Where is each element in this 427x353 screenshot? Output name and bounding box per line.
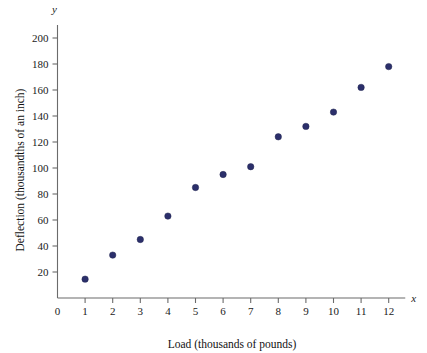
data-point [248,164,254,170]
x-tick-label: 10 [328,305,340,317]
y-tick-label: 180 [32,58,49,70]
x-tick-label: 3 [138,305,144,317]
data-point-series [82,63,392,282]
data-point [82,276,88,282]
x-axis-title: Load (thousands of pounds) [168,338,297,351]
x-tick-label: 1 [82,305,88,317]
y-axis-title: Deflection (thousandths of an inch) [14,88,27,251]
x-tick-label: 0 [55,305,61,317]
y-tick-label: 120 [32,136,49,148]
y-tick-label: 20 [38,266,50,278]
x-axis-tick-labels: 0123456789101112 [55,305,394,317]
y-tick-label: 40 [38,240,50,252]
data-point [165,213,171,219]
y-tick-label: 200 [32,32,49,44]
data-point [137,236,143,242]
y-axis-ticks [53,38,58,272]
x-tick-label: 8 [276,305,282,317]
x-tick-label: 12 [383,305,394,317]
y-axis-group: 20406080100120140160180200 y [32,3,58,298]
data-point [386,63,392,69]
x-tick-label: 2 [110,305,116,317]
x-tick-label: 6 [220,305,226,317]
y-axis-tick-labels: 20406080100120140160180200 [32,32,49,278]
data-point [275,134,281,140]
x-tick-label: 7 [248,305,254,317]
x-axis-variable-symbol: x [410,292,416,304]
y-axis-variable-symbol: y [51,3,57,15]
x-tick-label: 4 [165,305,171,317]
x-tick-label: 11 [356,305,367,317]
y-tick-label: 100 [32,162,49,174]
x-axis-group: 0123456789101112 x [55,292,417,317]
y-tick-label: 160 [32,84,49,96]
data-point [110,252,116,258]
scatter-plot-figure: 20406080100120140160180200 y 01234567891… [0,0,427,353]
y-tick-label: 60 [38,214,50,226]
data-point [358,84,364,90]
x-axis-ticks [85,298,389,303]
plot-canvas: 20406080100120140160180200 y 01234567891… [0,0,427,353]
y-tick-label: 140 [32,110,49,122]
data-point [192,184,198,190]
x-tick-label: 5 [193,305,199,317]
x-tick-label: 9 [303,305,309,317]
data-point [303,123,309,129]
y-tick-label: 80 [38,188,50,200]
data-point [220,171,226,177]
data-point [330,109,336,115]
